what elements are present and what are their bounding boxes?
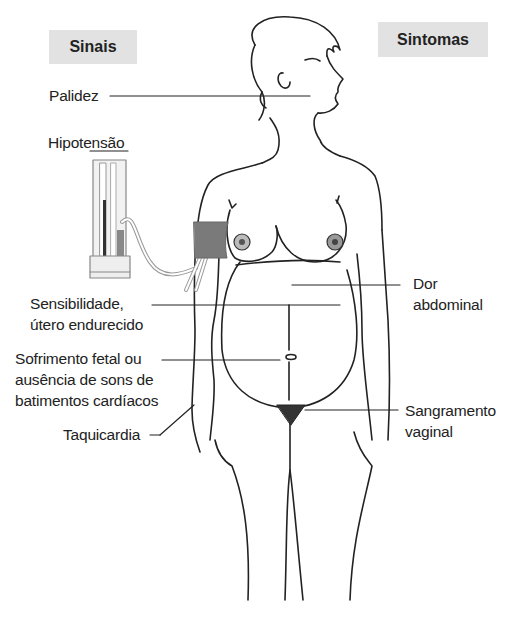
label-vaginal-bleeding: Sangramento vaginal (405, 400, 496, 442)
label-fetal-distress-line3: batimentos cardíacos (15, 390, 158, 411)
label-tender-uterus: Sensibilidade, útero endurecido (30, 293, 143, 335)
label-abdominal-pain-line2: abdominal (413, 294, 483, 315)
pubic-area (277, 405, 305, 425)
label-pallor: Palidez (49, 85, 98, 106)
symptoms-header: Sintomas (378, 22, 488, 57)
label-fetal-distress-line2: ausência de sons de (15, 369, 158, 390)
head (251, 17, 343, 163)
label-hypotension-text: Hipotensão (48, 134, 124, 151)
symptoms-header-label: Sintomas (397, 31, 469, 49)
label-vaginal-bleeding-line1: Sangramento (405, 400, 496, 421)
signs-header-label: Sinais (69, 38, 116, 56)
label-fetal-distress-line1: Sofrimento fetal ou (15, 348, 158, 369)
label-pallor-text: Palidez (49, 87, 98, 104)
label-vaginal-bleeding-line2: vaginal (405, 421, 496, 442)
label-fetal-distress: Sofrimento fetal ou ausência de sons de … (15, 348, 158, 411)
sphygmomanometer-icon (90, 160, 206, 290)
label-tachycardia-text: Taquicardia (63, 426, 140, 443)
label-abdominal-pain-line1: Dor (413, 273, 483, 294)
label-tender-uterus-line1: Sensibilidade, (30, 293, 143, 314)
label-abdominal-pain: Dor abdominal (413, 273, 483, 315)
blood-pressure-cuff (194, 222, 228, 258)
label-hypotension: Hipotensão (48, 132, 124, 153)
label-tachycardia: Taquicardia (63, 424, 140, 445)
label-tender-uterus-line2: útero endurecido (30, 314, 143, 335)
signs-header: Sinais (49, 30, 137, 64)
